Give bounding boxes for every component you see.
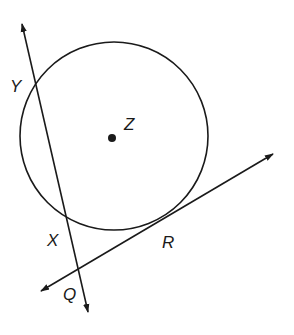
label-y: Y [10, 77, 23, 96]
label-r: R [162, 233, 174, 252]
label-q: Q [63, 285, 76, 304]
circle-secant-tangent-diagram: Y Z X R Q [0, 0, 294, 335]
label-x: X [46, 231, 59, 250]
label-z: Z [123, 115, 135, 134]
center-point-z [108, 134, 116, 142]
